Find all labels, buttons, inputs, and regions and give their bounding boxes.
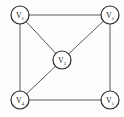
node-v4: V4 [11, 91, 29, 109]
node-v5: V5 [101, 91, 119, 109]
graph-svg: V1V2V3V4V5 [0, 0, 124, 117]
node-v2: V2 [101, 6, 119, 24]
graph-diagram: V1V2V3V4V5 [0, 0, 124, 117]
node-v1: V1 [11, 6, 29, 24]
edge-v2-v3 [62, 15, 110, 60]
node-v3: V3 [53, 51, 71, 69]
